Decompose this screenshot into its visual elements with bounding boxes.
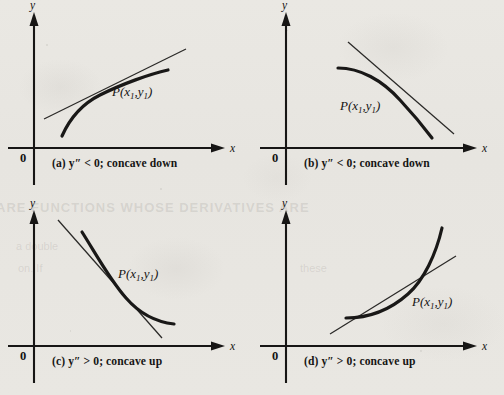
point-label-p: P(x1,y1) xyxy=(411,294,452,311)
x-axis-label: x xyxy=(481,340,488,352)
panel-d: y x 0 P(x1,y1) (d) y″ > 0; concave up xyxy=(252,198,504,395)
x-axis-label: x xyxy=(481,142,488,154)
figure-root: ARE FUNCTIONS WHOSE DERIVATIVES ARE a do… xyxy=(0,0,504,395)
y-axis-label: y xyxy=(281,0,288,12)
y-axis-arrowhead xyxy=(30,12,39,26)
x-axis-label: x xyxy=(229,340,236,352)
x-axis-arrowhead xyxy=(211,144,225,153)
tangent-line xyxy=(348,42,454,134)
panel-a-caption: (a) y″ < 0; concave down xyxy=(52,157,177,170)
function-curve xyxy=(62,70,168,136)
panel-a: y x 0 P(x1,y1) (a) y″ < 0; concave down xyxy=(0,0,252,197)
y-axis-arrowhead xyxy=(282,12,291,26)
origin-label: 0 xyxy=(272,151,278,165)
point-label-p: P(x1,y1) xyxy=(117,266,158,283)
panel-c-caption: (c) y″ > 0; concave up xyxy=(52,355,162,368)
origin-label: 0 xyxy=(272,349,278,363)
x-axis-arrowhead xyxy=(463,342,477,351)
panel-b: y x 0 P(x1,y1) (b) y″ < 0; concave down xyxy=(252,0,504,197)
x-axis-arrowhead xyxy=(463,144,477,153)
panel-d-caption: (d) y″ > 0; concave up xyxy=(304,355,416,368)
panel-b-caption: (b) y″ < 0; concave down xyxy=(304,157,430,170)
y-axis-label: y xyxy=(29,0,36,12)
panel-c: y x 0 P(x1,y1) (c) y″ > 0; concave up xyxy=(0,198,252,395)
point-label-p: P(x1,y1) xyxy=(339,98,380,115)
y-axis-label: y xyxy=(29,198,36,210)
x-axis-arrowhead xyxy=(211,342,225,351)
point-label-p: P(x1,y1) xyxy=(111,84,152,101)
x-axis-label: x xyxy=(229,142,236,154)
origin-label: 0 xyxy=(20,151,26,165)
y-axis-arrowhead xyxy=(30,210,39,224)
origin-label: 0 xyxy=(20,349,26,363)
y-axis-arrowhead xyxy=(282,210,291,224)
y-axis-label: y xyxy=(281,198,288,210)
